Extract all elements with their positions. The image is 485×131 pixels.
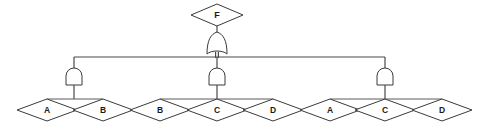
leaf-event-right-3[interactable]: D	[412, 99, 472, 121]
leaf-event-label: D	[270, 105, 276, 115]
leaf-event-label: B	[157, 105, 163, 115]
fault-tree-diagram: F	[0, 0, 485, 131]
leaf-event-label: B	[100, 105, 106, 115]
and-gate-shape-right	[377, 68, 393, 85]
and-gate-shape-left	[66, 68, 82, 85]
leaf-event-middle-2[interactable]: C	[187, 99, 247, 121]
top-event-label: F	[214, 10, 220, 20]
leaf-event-middle-1[interactable]: B	[130, 99, 190, 121]
leaf-event-right-2[interactable]: C	[355, 99, 415, 121]
leaf-event-label: A	[327, 105, 333, 115]
leaf-event-middle-3[interactable]: D	[243, 99, 303, 121]
leaf-event-label: C	[382, 105, 388, 115]
leaf-event-label: D	[439, 105, 445, 115]
leaf-event-label: C	[214, 105, 220, 115]
or-gate-top[interactable]	[207, 32, 227, 54]
top-event-node[interactable]: F	[191, 4, 243, 26]
and-gate-right[interactable]	[377, 68, 393, 85]
leaf-event-left-1[interactable]: A	[17, 99, 77, 121]
leaf-event-right-1[interactable]: A	[300, 99, 360, 121]
and-gate-left[interactable]	[66, 68, 82, 85]
and-gate-shape-middle	[209, 68, 225, 85]
leaf-event-left-2[interactable]: B	[73, 99, 133, 121]
or-gate-shape	[207, 32, 227, 54]
and-gate-middle[interactable]	[209, 68, 225, 85]
fault-tree-svg: F	[0, 0, 485, 131]
leaf-event-label: A	[44, 105, 50, 115]
